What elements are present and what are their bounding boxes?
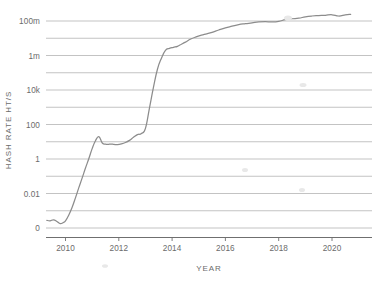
y-axis-tick-label: 1m [28,52,40,61]
chart-plot-area: 100m1m10k10010.010 201020122014201620182… [0,0,383,284]
x-axis-tick-label: 2018 [269,244,288,253]
x-axis-tick-labels: 201020122014201620182020 [56,244,341,253]
gridlines [46,21,372,228]
y-axis-tick-label: 10k [26,86,40,95]
x-axis-title: YEAR [196,264,221,273]
hash-rate-chart: 100m1m10k10010.010 201020122014201620182… [0,0,383,284]
y-axis-tick-label: 0.01 [24,190,41,199]
y-axis-tick-label: 1 [35,155,40,164]
y-axis-tick-label: 100 [26,121,40,130]
y-axis-tick-label: 100m [19,17,40,26]
x-axis-tick-label: 2012 [109,244,128,253]
x-axis-tick-label: 2020 [323,244,342,253]
x-axis-tick-label: 2014 [163,244,182,253]
x-axis-tick-label: 2010 [56,244,75,253]
y-axis-tick-labels: 100m1m10k10010.010 [19,17,41,233]
x-axis-tick-label: 2016 [216,244,235,253]
y-axis-title: HASH RATE HT/S [4,91,13,169]
hash-rate-line-series [47,14,351,223]
y-axis-tick-label: 0 [35,224,40,233]
